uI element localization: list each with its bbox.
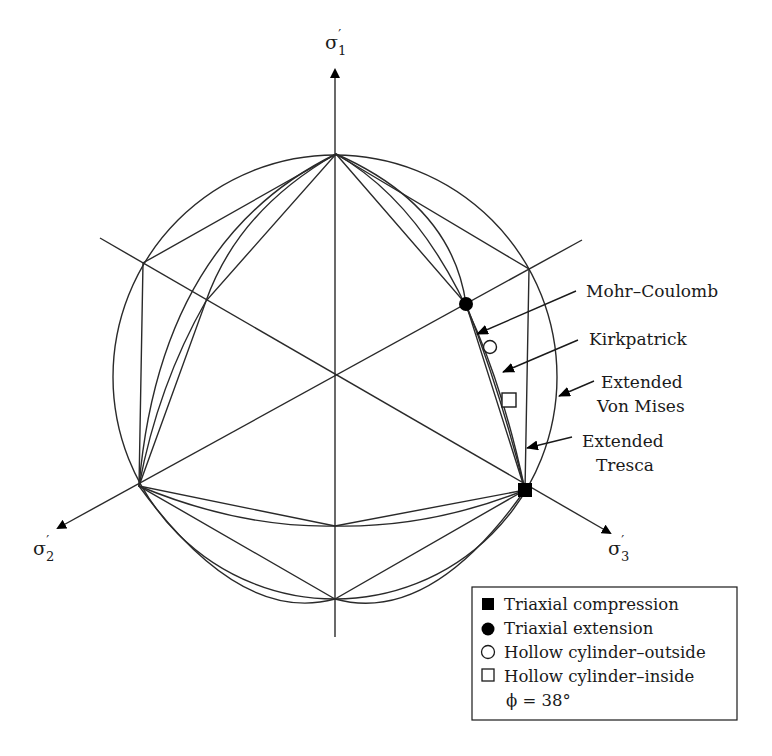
kirkpatrick-label: Kirkpatrick bbox=[589, 329, 687, 349]
sigma3-axis bbox=[100, 238, 610, 533]
von-mises-label-line2: Von Mises bbox=[596, 396, 685, 416]
legend-item-hollow-inside: Hollow cylinder–inside bbox=[504, 667, 694, 686]
von-mises-label-line1: Extended bbox=[601, 372, 683, 392]
legend-friction-angle: ϕ = 38° bbox=[506, 691, 571, 710]
triaxial-extension-point bbox=[459, 297, 473, 311]
hollow-cylinder-outside-point bbox=[484, 341, 497, 354]
legend-open-square-icon bbox=[482, 669, 494, 681]
failure-criteria-diagram: σ1′ σ2′ σ3′ Mohr–Coulomb Kirkpatrick Ext… bbox=[0, 0, 772, 756]
tresca-label-line2: Tresca bbox=[596, 455, 654, 475]
legend-item-triaxial-compression: Triaxial compression bbox=[504, 595, 679, 614]
legend-item-triaxial-extension: Triaxial extension bbox=[504, 619, 654, 638]
von-mises-arrow bbox=[559, 381, 594, 396]
kirkpatrick-curve bbox=[139, 154, 525, 526]
legend-open-circle-icon bbox=[482, 646, 495, 659]
triaxial-compression-point bbox=[518, 483, 532, 497]
mohr-coulomb-label: Mohr–Coulomb bbox=[586, 281, 718, 301]
kirkpatrick-outer-curve bbox=[139, 154, 525, 603]
hollow-cylinder-inside-point bbox=[502, 393, 516, 407]
legend: Triaxial compression Triaxial extension … bbox=[472, 587, 737, 720]
legend-filled-circle-icon bbox=[482, 623, 495, 636]
mohr-coulomb-hexagon bbox=[139, 154, 525, 526]
sigma3-label: σ3′ bbox=[608, 533, 629, 564]
kirkpatrick-arrow bbox=[503, 340, 578, 372]
legend-item-hollow-outside: Hollow cylinder–outside bbox=[504, 643, 706, 662]
sigma2-label: σ2′ bbox=[33, 533, 54, 564]
sigma2-axis bbox=[58, 240, 582, 528]
sigma1-label: σ1′ bbox=[325, 27, 346, 58]
mohr-coulomb-arrow bbox=[477, 291, 576, 334]
legend-filled-square-icon bbox=[482, 598, 494, 610]
tresca-arrow bbox=[527, 437, 572, 448]
tresca-label-line1: Extended bbox=[582, 431, 664, 451]
